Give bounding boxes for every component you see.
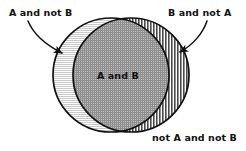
- label-b-and-not-a: B and not A: [168, 8, 231, 18]
- label-a-and-b: A and B: [97, 71, 139, 81]
- label-not-a-and-not-b: not A and not B: [152, 133, 237, 143]
- venn-diagram-canvas: A and not B B and not A A and B not A an…: [0, 0, 246, 151]
- label-a-and-not-b: A and not B: [9, 8, 72, 18]
